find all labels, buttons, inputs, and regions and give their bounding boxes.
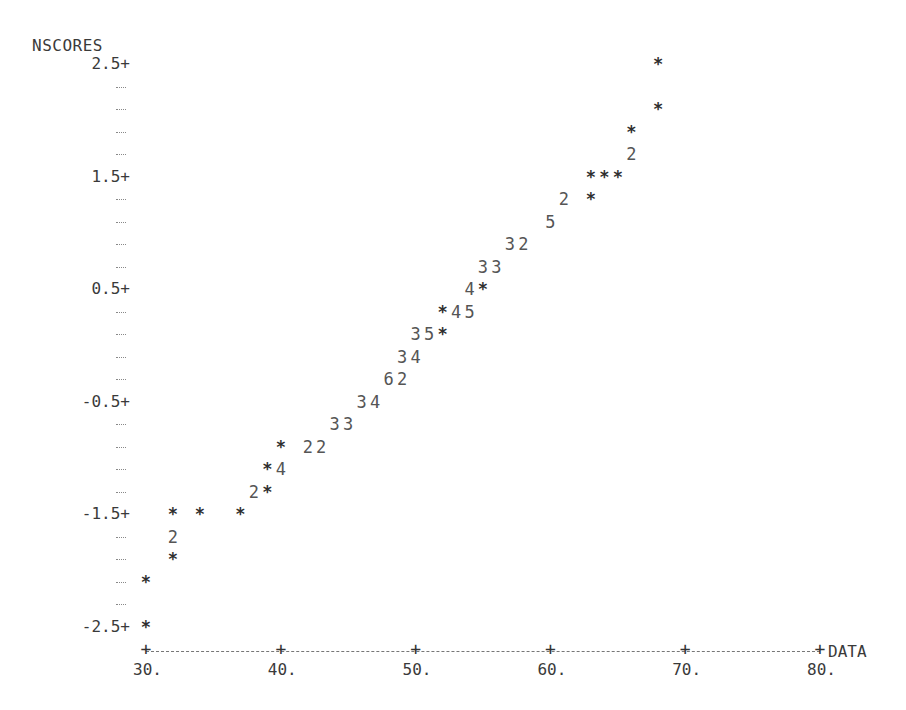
data-point-single: * [234, 506, 247, 523]
x-tick-label: 40. [268, 660, 328, 679]
y-minor-tick [116, 109, 126, 110]
y-tick-label: -1.5+ [10, 504, 130, 523]
data-point-single: * [139, 574, 152, 591]
y-minor-tick [116, 267, 126, 268]
data-point-count: 4 [449, 304, 462, 321]
data-point-single: * [598, 169, 611, 186]
data-point-count: 2 [166, 529, 179, 546]
x-tick-label: 80. [807, 660, 867, 679]
data-point-count: 3 [395, 349, 408, 366]
data-point-single: * [611, 169, 624, 186]
data-point-single: * [476, 281, 489, 298]
y-minor-tick [116, 154, 126, 155]
data-point-single: * [652, 101, 665, 118]
data-point-count: 2 [395, 371, 408, 388]
data-point-single: * [436, 304, 449, 321]
y-minor-tick [116, 244, 126, 245]
data-point-count: 4 [274, 461, 287, 478]
y-tick-label: -2.5+ [10, 617, 130, 636]
y-minor-tick [116, 582, 126, 583]
x-tick-mark: + [139, 640, 153, 658]
data-point-count: 5 [544, 214, 557, 231]
y-minor-tick [116, 357, 126, 358]
y-minor-tick [116, 537, 126, 538]
x-tick-mark: + [274, 640, 288, 658]
x-tick-mark: + [813, 640, 827, 658]
y-tick-label: -0.5+ [10, 392, 130, 411]
y-tick-label: 0.5+ [10, 279, 130, 298]
data-point-count: 3 [328, 416, 341, 433]
data-point-count: 4 [463, 281, 476, 298]
data-point-count: 2 [247, 484, 260, 501]
data-point-single: * [584, 169, 597, 186]
x-tick-mark: + [409, 640, 423, 658]
y-minor-tick [116, 379, 126, 380]
data-point-count: 3 [341, 416, 354, 433]
data-point-single: * [139, 619, 152, 636]
data-point-single: * [193, 506, 206, 523]
x-axis-line [146, 651, 820, 652]
data-point-count: 3 [409, 326, 422, 343]
data-point-single: * [584, 191, 597, 208]
data-point-count: 4 [368, 394, 381, 411]
data-point-count: 2 [517, 236, 530, 253]
data-point-count: 3 [490, 259, 503, 276]
data-point-count: 5 [422, 326, 435, 343]
x-tick-mark: + [678, 640, 692, 658]
data-point-single: * [261, 461, 274, 478]
y-minor-tick [116, 199, 126, 200]
x-axis-label: DATA [828, 642, 867, 661]
data-point-count: 3 [476, 259, 489, 276]
data-point-count: 5 [463, 304, 476, 321]
y-minor-tick [116, 132, 126, 133]
data-point-count: 4 [409, 349, 422, 366]
y-minor-tick [116, 312, 126, 313]
data-point-single: * [652, 56, 665, 73]
y-minor-tick [116, 492, 126, 493]
y-minor-tick [116, 222, 126, 223]
y-minor-tick [116, 424, 126, 425]
data-point-single: * [274, 439, 287, 456]
x-tick-label: 30. [133, 660, 193, 679]
y-tick-label: 2.5+ [10, 54, 130, 73]
y-minor-tick [116, 559, 126, 560]
data-point-count: 2 [557, 191, 570, 208]
data-point-count: 6 [382, 371, 395, 388]
y-tick-label: 1.5+ [10, 167, 130, 186]
data-point-count: 2 [315, 439, 328, 456]
data-point-single: * [166, 551, 179, 568]
x-tick-label: 60. [537, 660, 597, 679]
data-point-single: * [625, 124, 638, 141]
y-minor-tick [116, 447, 126, 448]
data-point-count: 2 [301, 439, 314, 456]
data-point-count: 2 [625, 146, 638, 163]
normal-probability-plot: NSCORES 2.5+1.5+0.5+-0.5+-1.5+-2.5+ ***2… [0, 0, 906, 710]
data-point-count: 3 [503, 236, 516, 253]
x-tick-label: 50. [403, 660, 463, 679]
x-tick-mark: + [543, 640, 557, 658]
data-point-single: * [166, 506, 179, 523]
y-minor-tick [116, 604, 126, 605]
y-minor-tick [116, 87, 126, 88]
x-tick-label: 70. [672, 660, 732, 679]
y-axis-label: NSCORES [32, 36, 103, 55]
y-minor-tick [116, 469, 126, 470]
y-minor-tick [116, 334, 126, 335]
data-point-single: * [436, 326, 449, 343]
data-point-count: 3 [355, 394, 368, 411]
data-point-single: * [261, 484, 274, 501]
